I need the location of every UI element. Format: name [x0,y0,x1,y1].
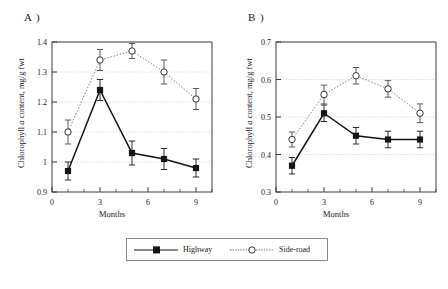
svg-text:0.3: 0.3 [261,188,271,197]
legend-swatch-side-road [229,244,275,256]
legend-swatch-highway [133,244,179,256]
svg-text:1.1: 1.1 [37,128,47,137]
svg-text:0.9: 0.9 [37,188,47,197]
svg-text:1.3: 1.3 [37,68,47,77]
legend-label-side-road: Side-road [279,245,310,254]
svg-text:9: 9 [418,198,422,207]
panel-a-plot: 0.911.11.21.31.40369 [0,0,224,232]
panel-b: B ) Chlorophyll a content, mg/g fwt 0.30… [224,0,448,232]
svg-text:6: 6 [146,198,150,207]
panel-a: A ) Chlorophyll a content, mg/g fwt 0.91… [0,0,224,232]
svg-text:3: 3 [322,198,326,207]
svg-text:0.5: 0.5 [261,113,271,122]
legend-label-highway: Highway [183,245,212,254]
panels-row: A ) Chlorophyll a content, mg/g fwt 0.91… [0,0,448,232]
svg-text:1.4: 1.4 [37,38,47,47]
legend-item-highway: Highway [133,239,212,260]
svg-text:6: 6 [370,198,374,207]
svg-text:1.2: 1.2 [37,98,47,107]
legend-box: Highway Side-road [126,238,328,261]
svg-text:0: 0 [50,198,54,207]
legend-container: Highway Side-road [0,236,448,276]
svg-text:0.4: 0.4 [261,151,271,160]
panel-b-plot: 0.30.40.50.60.70369 [224,0,448,232]
svg-text:3: 3 [98,198,102,207]
svg-text:0: 0 [274,198,278,207]
svg-text:9: 9 [194,198,198,207]
svg-text:0.7: 0.7 [261,38,271,47]
panel-a-x-axis-label: Months [0,209,224,219]
panel-b-x-axis-label: Months [224,209,448,219]
figure-container: A ) Chlorophyll a content, mg/g fwt 0.91… [0,0,448,289]
svg-text:0.6: 0.6 [261,76,271,85]
svg-text:1: 1 [43,158,47,167]
legend-item-side-road: Side-road [229,239,310,260]
